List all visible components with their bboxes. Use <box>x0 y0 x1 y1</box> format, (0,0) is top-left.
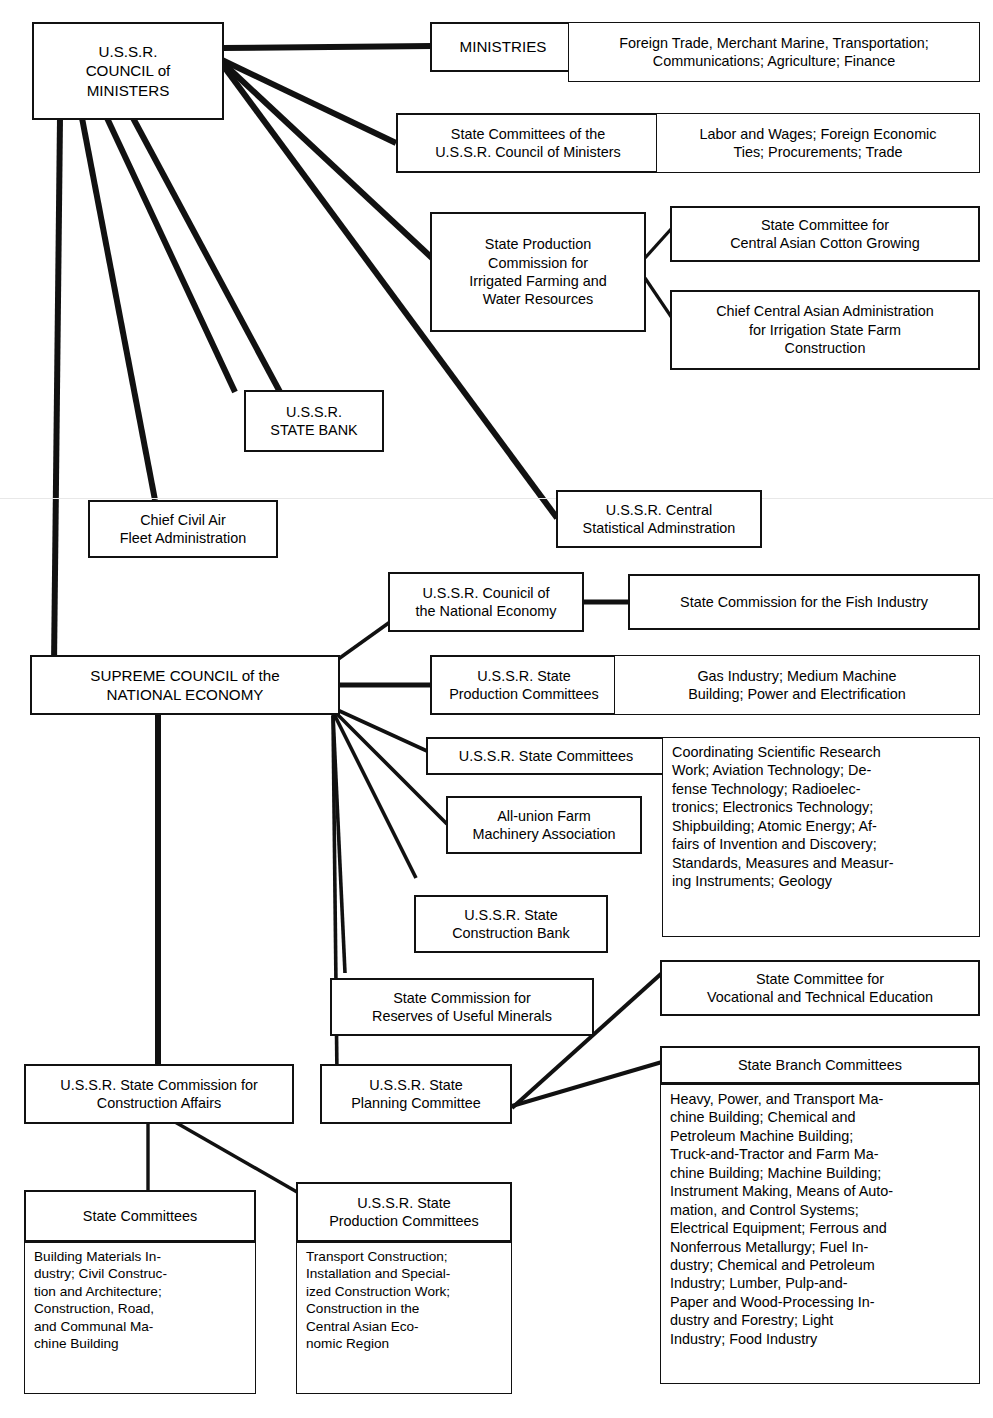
node-ministries-list[interactable]: Foreign Trade, Merchant Marine, Transpor… <box>568 22 980 82</box>
node-ministries[interactable]: MINISTRIES <box>430 22 576 72</box>
node-state-branch-committees[interactable]: State Branch Committees <box>660 1046 980 1084</box>
edge-constr-to-prodcommittees <box>175 1122 297 1192</box>
node-label: U.S.S.R. State Production Committees <box>324 1194 484 1231</box>
node-irrigation-administration[interactable]: Chief Central Asian Administration for I… <box>670 290 980 370</box>
node-label: Foreign Trade, Merchant Marine, Transpor… <box>614 34 934 71</box>
node-state-construction-bank[interactable]: U.S.S.R. State Construction Bank <box>414 895 608 953</box>
node-construction-production-committees-list[interactable]: Transport Construction; Installation and… <box>296 1242 512 1394</box>
node-construction-state-committees-list[interactable]: Building Materials In- dustry; Civil Con… <box>24 1242 256 1394</box>
node-label: State Commission for Reserves of Useful … <box>367 989 557 1026</box>
node-farm-machinery-association[interactable]: All-union Farm Machinery Association <box>446 796 642 854</box>
node-label: Transport Construction; Installation and… <box>297 1243 455 1352</box>
node-label: SUPREME COUNCIL of the NATIONAL ECONOMY <box>85 666 284 705</box>
node-label: State Committees <box>78 1207 202 1225</box>
edge-com-to-bank-b <box>133 118 280 392</box>
node-label: U.S.S.R. State Production Committees <box>444 667 604 704</box>
edge-com-to-supreme-council <box>54 118 60 665</box>
node-state-committees-of-council-list[interactable]: Labor and Wages; Foreign Economic Ties; … <box>656 113 980 173</box>
node-council-national-economy[interactable]: U.S.S.R. Counicil of the National Econom… <box>388 572 584 632</box>
node-label: State Production Commission for Irrigate… <box>464 235 612 309</box>
node-state-production-committees[interactable]: U.S.S.R. State Production Committees <box>430 655 618 715</box>
node-label: All-union Farm Machinery Association <box>467 807 620 844</box>
node-vocational-education-committee[interactable]: State Committee for Vocational and Techn… <box>660 960 980 1016</box>
node-supreme-council[interactable]: SUPREME COUNCIL of the NATIONAL ECONOMY <box>30 655 340 715</box>
node-state-production-commission[interactable]: State Production Commission for Irrigate… <box>430 212 646 332</box>
node-fish-industry-commission[interactable]: State Commission for the Fish Industry <box>628 574 980 630</box>
edge-supreme-to-statecommittees <box>333 708 427 751</box>
node-state-committees-ussr-list[interactable]: Coordinating Scientific Research Work; A… <box>662 737 980 937</box>
node-state-branch-committees-list[interactable]: Heavy, Power, and Transport Ma- chine Bu… <box>660 1084 980 1384</box>
node-state-production-committees-list[interactable]: Gas Industry; Medium Machine Building; P… <box>614 655 980 715</box>
node-label: U.S.S.R. COUNCIL of MINISTERS <box>81 42 176 100</box>
node-label: Heavy, Power, and Transport Ma- chine Bu… <box>661 1085 898 1348</box>
node-label: State Committees of the U.S.S.R. Council… <box>430 125 626 162</box>
edge-prodcom-to-cotton <box>645 228 672 258</box>
node-label: U.S.S.R. STATE BANK <box>265 403 362 440</box>
node-central-statistical[interactable]: U.S.S.R. Central Statistical Adminstrati… <box>556 490 762 548</box>
node-label: State Committee for Central Asian Cotton… <box>725 216 925 253</box>
node-reserves-useful-minerals[interactable]: State Commission for Reserves of Useful … <box>330 978 594 1036</box>
node-label: U.S.S.R. State Construction Bank <box>447 906 575 943</box>
node-state-bank[interactable]: U.S.S.R. STATE BANK <box>244 390 384 452</box>
edge-com-to-civil-air <box>82 118 155 500</box>
node-label: State Commission for the Fish Industry <box>675 593 933 611</box>
node-state-committees-of-council[interactable]: State Committees of the U.S.S.R. Council… <box>396 113 660 173</box>
node-label: Labor and Wages; Foreign Economic Ties; … <box>694 125 941 162</box>
node-label: U.S.S.R. Counicil of the National Econom… <box>411 584 562 621</box>
node-label: U.S.S.R. State Commission for Constructi… <box>55 1076 263 1113</box>
node-cotton-growing-committee[interactable]: State Committee for Central Asian Cotton… <box>670 206 980 262</box>
node-construction-production-committees[interactable]: U.S.S.R. State Production Committees <box>296 1182 512 1242</box>
node-label: MINISTRIES <box>455 37 552 56</box>
node-label: U.S.S.R. State Committees <box>454 747 638 765</box>
node-label: Gas Industry; Medium Machine Building; P… <box>683 667 911 704</box>
node-label: Chief Civil Air Fleet Administration <box>115 511 251 548</box>
org-chart-diagram: U.S.S.R. COUNCIL of MINISTERS MINISTRIES… <box>0 0 993 1418</box>
node-label: State Branch Committees <box>733 1056 907 1074</box>
node-construction-affairs-commission[interactable]: U.S.S.R. State Commission for Constructi… <box>24 1064 294 1124</box>
node-label: U.S.S.R. State Planning Committee <box>346 1076 486 1113</box>
scan-artifact-line <box>0 498 993 499</box>
edge-planning-to-branch <box>512 1062 662 1106</box>
node-construction-state-committees[interactable]: State Committees <box>24 1190 256 1242</box>
edge-prodcom-to-irrigation <box>645 278 672 318</box>
node-label: U.S.S.R. Central Statistical Adminstrati… <box>578 501 741 538</box>
node-label: Chief Central Asian Administration for I… <box>711 302 939 357</box>
node-label: Coordinating Scientific Research Work; A… <box>663 738 899 891</box>
node-label: State Committee for Vocational and Techn… <box>702 970 938 1007</box>
node-state-planning-committee[interactable]: U.S.S.R. State Planning Committee <box>320 1064 512 1124</box>
node-civil-air-fleet[interactable]: Chief Civil Air Fleet Administration <box>88 500 278 558</box>
node-council-of-ministers[interactable]: U.S.S.R. COUNCIL of MINISTERS <box>32 22 224 120</box>
node-state-committees-ussr[interactable]: U.S.S.R. State Committees <box>426 737 666 775</box>
edge-com-to-ministries <box>222 46 432 48</box>
edge-supreme-to-constrbank <box>333 712 416 878</box>
node-label: Building Materials In- dustry; Civil Con… <box>25 1243 172 1352</box>
